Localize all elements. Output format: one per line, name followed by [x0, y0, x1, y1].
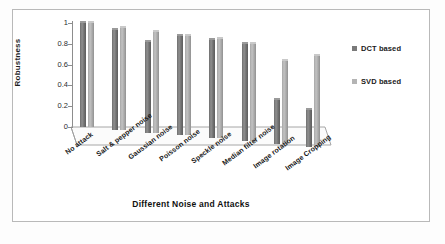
- plot-area: 00.20.40.60.81 Robustness No attackSalt …: [0, 0, 445, 244]
- y-tick-mark: [68, 23, 73, 24]
- x-category-label: No attack: [64, 130, 94, 155]
- y-tick-mark: [68, 127, 73, 128]
- legend-item: SVD based: [352, 77, 432, 86]
- x-axis-title: Different Noise and Attacks: [96, 199, 286, 209]
- chart-legend: DCT basedSVD based: [352, 44, 432, 110]
- x-category-label: Salt & pepper noise: [95, 112, 153, 158]
- legend-swatch-icon: [352, 79, 357, 84]
- legend-label: SVD based: [361, 77, 401, 86]
- legend-item: DCT based: [352, 44, 432, 53]
- y-tick-mark: [68, 106, 73, 107]
- y-tick-mark: [68, 44, 73, 45]
- y-tick-mark: [68, 85, 73, 86]
- y-tick-mark: [68, 65, 73, 66]
- legend-label: DCT based: [361, 44, 401, 53]
- chart-page: 00.20.40.60.81 Robustness No attackSalt …: [0, 0, 445, 244]
- legend-swatch-icon: [352, 46, 357, 51]
